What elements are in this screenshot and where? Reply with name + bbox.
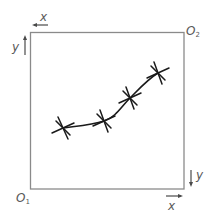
coordinate-frame xyxy=(31,33,185,190)
asterisk-marker-icon xyxy=(147,62,169,84)
origin-o1-subscript: 1 xyxy=(25,198,29,206)
asterisk-marker-icon xyxy=(93,110,115,132)
diagram-canvas xyxy=(0,0,216,217)
bottom-x-axis-label: x xyxy=(168,200,175,212)
trajectory-curve xyxy=(63,73,158,128)
asterisk-marker-icon xyxy=(52,117,74,139)
origin-o2-label: O2 xyxy=(186,25,200,41)
origin-o2-subscript: 2 xyxy=(195,31,199,39)
arrow-down-icon xyxy=(189,170,193,187)
arrow-up-icon xyxy=(23,35,27,55)
origin-o1-label: O1 xyxy=(16,192,30,208)
arrow-right-icon xyxy=(166,194,183,198)
bottom-y-axis-label: y xyxy=(196,169,203,181)
top-x-axis-label: x xyxy=(40,11,47,23)
top-y-axis-label: y xyxy=(12,41,19,53)
